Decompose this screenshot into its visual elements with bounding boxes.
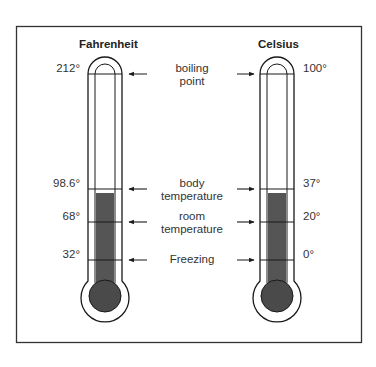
marker-room-line2: temperature xyxy=(147,223,237,236)
marker-label-boiling: boiling point xyxy=(147,62,237,87)
fahrenheit-tick-room: 68° xyxy=(30,210,80,223)
celsius-title: Celsius xyxy=(258,38,299,50)
celsius-fluid xyxy=(268,193,286,293)
fahrenheit-tick-body: 98.6° xyxy=(30,177,80,190)
fahrenheit-fluid xyxy=(96,193,114,293)
fahrenheit-title: Fahrenheit xyxy=(79,38,138,50)
fahrenheit-bulb xyxy=(89,280,121,312)
celsius-tick-boiling: 100° xyxy=(303,62,327,75)
celsius-tick-body: 37° xyxy=(303,177,320,190)
marker-body-line2: temperature xyxy=(147,190,237,203)
marker-label-room: room temperature xyxy=(147,210,237,235)
marker-label-body: body temperature xyxy=(147,177,237,202)
fahrenheit-tick-boiling: 212° xyxy=(30,62,80,75)
celsius-thermometer xyxy=(253,57,301,322)
marker-body-line1: body xyxy=(147,177,237,190)
celsius-bulb xyxy=(261,280,293,312)
celsius-tick-room: 20° xyxy=(303,210,320,223)
marker-freezing-line1: Freezing xyxy=(168,253,217,265)
fahrenheit-thermometer xyxy=(81,57,129,322)
celsius-tick-freezing: 0° xyxy=(303,248,314,261)
fahrenheit-tick-freezing: 32° xyxy=(30,248,80,261)
marker-room-line1: room xyxy=(147,210,237,223)
marker-boiling-line1: boiling xyxy=(147,62,237,75)
marker-label-freezing: Freezing xyxy=(147,253,237,266)
marker-boiling-line2: point xyxy=(147,75,237,88)
